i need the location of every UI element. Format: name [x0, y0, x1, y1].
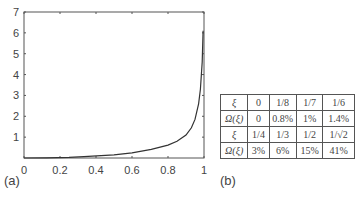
table-cell: 41% — [323, 143, 355, 159]
table-cell: 1/6 — [323, 95, 355, 111]
x-tick-label: 0.2 — [52, 164, 67, 176]
table-cell: 0 — [248, 95, 269, 111]
x-tick-label: 0.4 — [88, 164, 103, 176]
y-tick-label: 7 — [13, 6, 19, 18]
x-tick-label: 0.8 — [160, 164, 175, 176]
row-header-cell: Ω(ξ) — [221, 111, 248, 127]
table-cell: 15% — [296, 143, 323, 159]
table-cell: 1/4 — [248, 127, 269, 143]
x-tick-label: 1 — [201, 164, 207, 176]
row-header-cell: ξ — [221, 127, 248, 143]
table-row: ξ01/81/71/6 — [221, 95, 355, 111]
table-row: ξ1/41/31/21/√2 — [221, 127, 355, 143]
table-cell: 1/7 — [296, 95, 323, 111]
y-tick-label: 6 — [13, 27, 19, 39]
y-tick-label: 1 — [13, 131, 19, 143]
data-table: ξ01/81/71/6Ω(ξ)00.8%1%1.4%ξ1/41/31/21/√2… — [220, 94, 355, 159]
line-chart: 00.20.40.60.811234567 — [0, 0, 215, 197]
table-cell: 1% — [296, 111, 323, 127]
table-cell: 6% — [269, 143, 296, 159]
table-cell: 0.8% — [269, 111, 296, 127]
y-tick-label: 2 — [13, 110, 19, 122]
panel-label-b: (b) — [220, 173, 236, 188]
data-curve — [24, 31, 203, 158]
x-tick-label: 0 — [21, 164, 27, 176]
plot-frame — [24, 12, 204, 158]
table-row: Ω(ξ)3%6%15%41% — [221, 143, 355, 159]
y-tick-label: 3 — [13, 89, 19, 101]
panel-label-a: (a) — [4, 173, 20, 188]
row-header-cell: Ω(ξ) — [221, 143, 248, 159]
table-cell: 1/3 — [269, 127, 296, 143]
table-cell: 3% — [248, 143, 269, 159]
row-header-cell: ξ — [221, 95, 248, 111]
y-tick-label: 5 — [13, 48, 19, 60]
table-cell: 0 — [248, 111, 269, 127]
table-cell: 1/√2 — [323, 127, 355, 143]
table-cell: 1.4% — [323, 111, 355, 127]
table-cell: 1/2 — [296, 127, 323, 143]
table-cell: 1/8 — [269, 95, 296, 111]
table-row: Ω(ξ)00.8%1%1.4% — [221, 111, 355, 127]
x-tick-label: 0.6 — [124, 164, 139, 176]
y-tick-label: 4 — [13, 69, 19, 81]
